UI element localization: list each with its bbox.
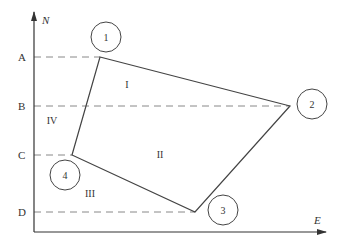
point-label-3: 3 xyxy=(221,205,226,216)
tick-label-b: B xyxy=(18,100,25,112)
region-label-iv: IV xyxy=(47,115,58,126)
polygon-outline xyxy=(72,57,290,212)
region-label-ii: II xyxy=(157,149,164,160)
region-label-i: I xyxy=(125,79,128,90)
point-label-1: 1 xyxy=(104,32,109,43)
labels: NEABCDIIIIIIIV xyxy=(18,14,321,226)
dashed-guides xyxy=(34,57,290,212)
polygon xyxy=(72,57,290,212)
tick-label-c: C xyxy=(18,149,25,161)
east-axis-label: E xyxy=(313,214,321,226)
axes xyxy=(34,12,326,232)
point-label-2: 2 xyxy=(310,99,315,110)
tick-label-d: D xyxy=(18,206,26,218)
point-label-4: 4 xyxy=(63,170,68,181)
polygon-diagram: 1234 NEABCDIIIIIIIV xyxy=(0,0,344,248)
region-label-iii: III xyxy=(85,188,95,199)
tick-label-a: A xyxy=(18,51,26,63)
north-axis-label: N xyxy=(41,14,50,26)
